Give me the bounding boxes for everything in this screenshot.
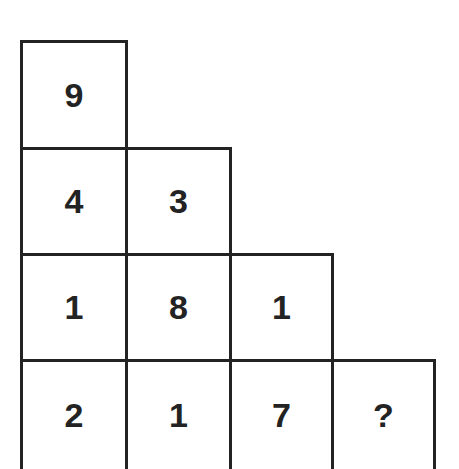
cell-r3-c0: 2 bbox=[20, 359, 128, 469]
cell-r2-c0: 1 bbox=[20, 253, 128, 362]
cell-r1-c0: 4 bbox=[20, 147, 128, 256]
question-mark: ? bbox=[373, 396, 394, 435]
cell-value: 7 bbox=[272, 396, 291, 435]
cell-value: 1 bbox=[169, 396, 188, 435]
cell-value: 8 bbox=[169, 288, 188, 327]
cell-r1-c1: 3 bbox=[125, 147, 232, 256]
cell-value: 1 bbox=[272, 288, 291, 327]
cell-value: 2 bbox=[65, 396, 84, 435]
cell-value: 1 bbox=[65, 288, 84, 327]
cell-r3-c1: 1 bbox=[125, 359, 232, 469]
cell-r3-c3-unknown: ? bbox=[331, 359, 436, 469]
cell-value: 3 bbox=[169, 182, 188, 221]
cell-value: 9 bbox=[65, 76, 84, 115]
cell-r0-c0: 9 bbox=[20, 40, 128, 150]
cell-value: 4 bbox=[65, 182, 84, 221]
cell-r3-c2: 7 bbox=[229, 359, 334, 469]
cell-r2-c2: 1 bbox=[229, 253, 334, 362]
cell-r2-c1: 8 bbox=[125, 253, 232, 362]
